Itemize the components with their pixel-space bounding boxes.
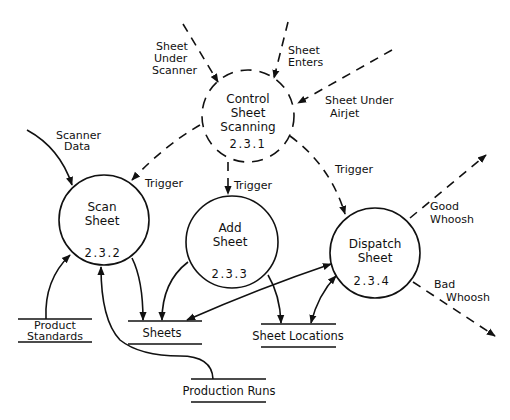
process-number: 2.3.3: [212, 267, 249, 281]
process-name-line: Sheet: [358, 251, 393, 265]
process-name-line: Scan: [87, 200, 116, 214]
process-name-line: Dispatch: [349, 237, 402, 251]
svg-text:Whoosh: Whoosh: [430, 213, 474, 226]
store-sheets[interactable]: Sheets: [128, 321, 202, 344]
svg-text:Data: Data: [64, 140, 90, 153]
flow-trigger-scan-sheet[interactable]: [132, 125, 200, 180]
store-label: Sheets: [142, 326, 181, 340]
flow-label-bad-whoosh: Bad Whoosh: [434, 278, 490, 304]
process-scan-sheet[interactable]: Scan Sheet 2.3.2: [59, 175, 149, 265]
process-name-line: Add: [218, 221, 241, 235]
process-name-line: Sheet: [85, 214, 120, 228]
flow-product-standards-to-scan[interactable]: [46, 255, 70, 319]
store-product-standards[interactable]: Product Standards: [18, 319, 92, 343]
flow-label-trigger-dispatch: Trigger: [334, 163, 373, 176]
flow-add-to-sheets[interactable]: [162, 262, 188, 320]
store-label: Sheet Locations: [252, 329, 344, 343]
store-sheet-locations[interactable]: Sheet Locations: [252, 324, 344, 347]
flow-label-sheet-under-airjet: Sheet Under Airjet: [325, 94, 394, 120]
svg-text:Airjet: Airjet: [330, 107, 360, 120]
svg-text:Enters: Enters: [288, 56, 324, 69]
svg-text:Sheet Under: Sheet Under: [325, 94, 394, 107]
flow-label-good-whoosh: Good Whoosh: [430, 200, 474, 226]
svg-text:Scanner: Scanner: [152, 64, 197, 77]
process-name-line: Scanning: [220, 120, 275, 134]
flow-label-sheet-enters: Sheet Enters: [288, 44, 324, 69]
process-number: 2.3.4: [354, 274, 391, 288]
data-flow-diagram: Control Sheet Scanning 2.3.1 Scan Sheet …: [0, 0, 510, 420]
process-control-sheet-scanning[interactable]: Control Sheet Scanning 2.3.1: [202, 70, 294, 162]
process-name-line: Sheet: [231, 106, 266, 120]
flow-sheet-enters[interactable]: [274, 22, 288, 78]
svg-text:Bad: Bad: [434, 278, 455, 291]
flow-label-scanner-data: Scanner Data: [56, 129, 101, 153]
flow-sheet-locations-dispatch-bidirectional[interactable]: [311, 276, 336, 323]
svg-text:Whoosh: Whoosh: [446, 291, 490, 304]
process-number: 2.3.2: [85, 246, 122, 260]
flow-production-runs-to-scan[interactable]: [101, 267, 213, 379]
flow-scan-to-sheets[interactable]: [132, 258, 143, 320]
process-dispatch-sheet[interactable]: Dispatch Sheet 2.3.4: [330, 208, 420, 298]
store-label: Production Runs: [183, 384, 276, 398]
process-name-line: Sheet: [213, 235, 248, 249]
flow-label-trigger-add: Trigger: [233, 179, 272, 192]
process-name-line: Control: [226, 92, 269, 106]
store-label-line: Standards: [27, 330, 83, 343]
process-number: 2.3.1: [230, 137, 267, 151]
flow-label-sheet-under-scanner: Sheet Under Scanner: [152, 40, 197, 77]
store-production-runs[interactable]: Production Runs: [183, 379, 276, 402]
process-add-sheet[interactable]: Add Sheet 2.3.3: [186, 196, 278, 288]
svg-text:Good: Good: [430, 200, 459, 213]
flow-label-trigger-scan: Trigger: [144, 177, 183, 190]
